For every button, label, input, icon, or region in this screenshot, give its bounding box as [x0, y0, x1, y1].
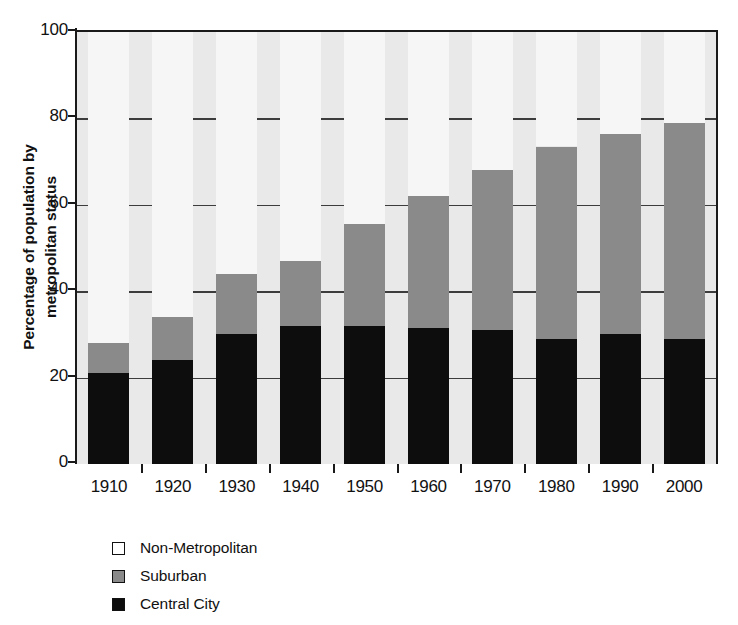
x-axis-tick-mark — [141, 464, 143, 473]
x-axis-tick-label: 1980 — [524, 477, 588, 497]
x-axis-tick-label: 1920 — [141, 477, 205, 497]
x-axis-tick-mark — [333, 464, 335, 473]
bar-segment-suburban[interactable] — [600, 134, 641, 335]
legend-item[interactable]: Suburban — [112, 564, 257, 588]
bar-segment-suburban[interactable] — [344, 224, 385, 326]
bar-segment-suburban[interactable] — [408, 196, 449, 328]
bar-segment-non-metropolitan[interactable] — [664, 32, 705, 123]
y-axis-tick-label: 40 — [22, 279, 68, 299]
x-axis-tick-label: 1950 — [333, 477, 397, 497]
y-axis-tick-mark — [68, 461, 77, 463]
bar-series-group — [77, 32, 716, 464]
bar-segment-suburban[interactable] — [280, 261, 321, 326]
chart-legend: Non-MetropolitanSuburbanCentral City — [112, 536, 257, 620]
legend-item-label: Non-Metropolitan — [140, 539, 257, 557]
bar-segment-central-city[interactable] — [600, 334, 641, 464]
y-axis-tick-label: 100 — [22, 20, 68, 40]
plot-area — [77, 30, 718, 464]
bar-segment-suburban[interactable] — [88, 343, 129, 373]
x-axis-tick-label: 1990 — [588, 477, 652, 497]
bar-segment-non-metropolitan[interactable] — [408, 32, 449, 196]
x-axis-tick-mark — [652, 464, 654, 473]
bar-segment-non-metropolitan[interactable] — [344, 32, 385, 224]
bar-1920[interactable] — [152, 32, 193, 464]
x-axis-tick-label: 2000 — [652, 477, 716, 497]
bar-segment-central-city[interactable] — [216, 334, 257, 464]
y-axis-tick-mark — [68, 115, 77, 117]
y-axis-tick-mark — [68, 288, 77, 290]
bar-1980[interactable] — [536, 32, 577, 464]
x-axis-tick-mark — [397, 464, 399, 473]
stacked-bar-chart-figure: Percentage of population by metropolitan… — [0, 0, 738, 625]
x-axis-tick-label: 1940 — [269, 477, 333, 497]
bar-segment-central-city[interactable] — [88, 373, 129, 464]
bar-segment-suburban[interactable] — [152, 317, 193, 360]
legend-swatch-white-icon — [112, 542, 125, 555]
y-axis-tick-label: 80 — [22, 106, 68, 126]
bar-1910[interactable] — [88, 32, 129, 464]
bar-segment-suburban[interactable] — [536, 147, 577, 339]
x-axis-tick-label: 1960 — [396, 477, 460, 497]
legend-item[interactable]: Non-Metropolitan — [112, 536, 257, 560]
x-axis-tick-mark — [460, 464, 462, 473]
y-axis-tick-labels: 020406080100 — [20, 0, 68, 625]
bar-1960[interactable] — [408, 32, 449, 464]
bar-1990[interactable] — [600, 32, 641, 464]
bar-segment-non-metropolitan[interactable] — [216, 32, 257, 274]
bar-segment-non-metropolitan[interactable] — [152, 32, 193, 317]
x-axis-tick-mark — [588, 464, 590, 473]
bar-1940[interactable] — [280, 32, 321, 464]
bar-segment-non-metropolitan[interactable] — [88, 32, 129, 343]
y-axis-tick-mark — [68, 375, 77, 377]
x-axis-tick-label: 1970 — [460, 477, 524, 497]
bar-1930[interactable] — [216, 32, 257, 464]
bar-segment-central-city[interactable] — [344, 326, 385, 464]
y-axis-tick-mark — [68, 202, 77, 204]
bar-segment-suburban[interactable] — [664, 123, 705, 339]
bar-segment-non-metropolitan[interactable] — [472, 32, 513, 170]
y-axis-tick-label: 60 — [22, 193, 68, 213]
x-axis-tick-mark — [205, 464, 207, 473]
y-axis-tick-label: 0 — [22, 452, 68, 472]
x-axis-tick-mark — [269, 464, 271, 473]
bar-1970[interactable] — [472, 32, 513, 464]
bar-segment-central-city[interactable] — [280, 326, 321, 464]
bar-segment-non-metropolitan[interactable] — [280, 32, 321, 261]
bar-segment-central-city[interactable] — [408, 328, 449, 464]
x-axis-tick-label: 1930 — [205, 477, 269, 497]
bar-1950[interactable] — [344, 32, 385, 464]
y-axis-tick-mark — [68, 29, 77, 31]
bar-segment-central-city[interactable] — [472, 330, 513, 464]
legend-item-label: Central City — [140, 595, 220, 613]
bar-segment-suburban[interactable] — [216, 274, 257, 334]
legend-item[interactable]: Central City — [112, 592, 257, 616]
y-axis-tick-label: 20 — [22, 366, 68, 386]
bar-segment-non-metropolitan[interactable] — [600, 32, 641, 134]
bar-segment-central-city[interactable] — [152, 360, 193, 464]
bar-2000[interactable] — [664, 32, 705, 464]
bar-segment-suburban[interactable] — [472, 170, 513, 330]
x-axis-tick-mark — [524, 464, 526, 473]
bar-segment-non-metropolitan[interactable] — [536, 32, 577, 146]
legend-swatch-gray-icon — [112, 570, 125, 583]
x-axis-tick-label: 1910 — [77, 477, 141, 497]
bar-segment-central-city[interactable] — [664, 339, 705, 464]
legend-swatch-black-icon — [112, 598, 125, 611]
bar-segment-central-city[interactable] — [536, 339, 577, 464]
legend-item-label: Suburban — [140, 567, 206, 585]
